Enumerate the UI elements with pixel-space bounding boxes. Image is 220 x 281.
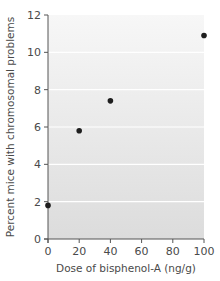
x-tick-label: 60 [135,245,149,258]
x-tick-label: 0 [45,245,52,258]
data-point [201,33,207,39]
y-axis-title: Percent mice with chromosomal problems [4,17,16,238]
y-tick-label: 0 [34,233,41,246]
y-tick-label: 4 [34,158,41,171]
scatter-chart: 024681012 020406080100 Dose of bisphenol… [0,0,220,281]
x-tick-label: 40 [103,245,117,258]
y-axis-ticks: 024681012 [27,9,48,246]
data-point [76,128,82,134]
x-axis-title: Dose of bisphenol-A (ng/g) [56,262,196,274]
y-tick-label: 8 [34,84,41,97]
y-tick-label: 12 [27,9,41,22]
y-tick-label: 2 [34,196,41,209]
y-tick-label: 6 [34,121,41,134]
y-tick-label: 10 [27,46,41,59]
x-axis-ticks: 020406080100 [45,239,215,258]
data-point [45,203,51,209]
data-point [108,98,114,104]
x-tick-label: 100 [194,245,215,258]
x-tick-label: 20 [72,245,86,258]
x-tick-label: 80 [166,245,180,258]
